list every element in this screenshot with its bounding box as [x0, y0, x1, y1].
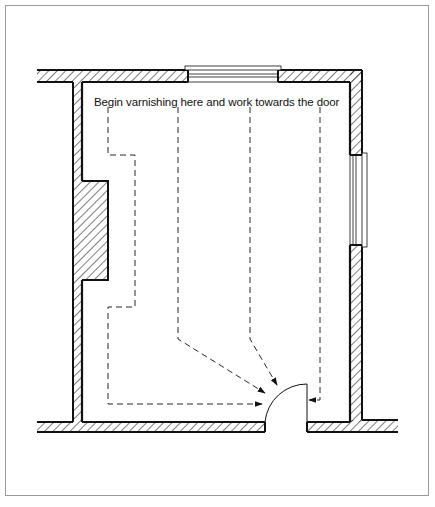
lower-right-wall	[307, 420, 398, 432]
path-4-right	[309, 107, 320, 400]
top-window	[185, 66, 281, 82]
varnish-start-annotation: Begin varnishing here and work towards t…	[94, 96, 339, 108]
diagram-canvas: Begin varnishing here and work towards t…	[0, 0, 435, 507]
path-2-center-left	[178, 107, 265, 393]
left-chimney-breast	[82, 181, 108, 280]
path-1-perimeter	[108, 107, 262, 404]
bottom-wall	[37, 422, 265, 432]
right-window	[350, 153, 367, 247]
left-wall	[73, 82, 82, 422]
bottom-door	[265, 384, 307, 422]
top-wall	[37, 70, 362, 82]
floor-plan	[0, 0, 435, 507]
path-3-center-right	[250, 107, 277, 385]
right-wall	[350, 70, 362, 422]
